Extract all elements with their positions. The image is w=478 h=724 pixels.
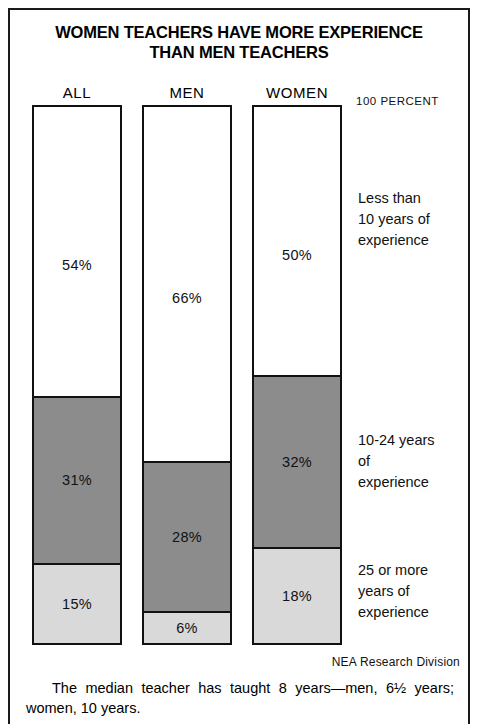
legend-top-line-2: 10 years of [358,209,470,230]
bar-segment-men-ten-to-24: 28% [144,461,230,611]
legend-item-10-to-24-years: 10-24 years of experience [358,430,470,493]
bar-segment-label: 66% [172,291,202,306]
bar-segment-women-ten-to-24: 32% [254,375,340,547]
caption-line-1: The median teacher has taught 8 years—me… [52,680,406,696]
column-header-women: WOMEN [252,84,342,101]
chart-caption: The median teacher has taught 8 years—me… [26,678,454,718]
legend-bottom-line-1: 25 or more [358,560,470,581]
bar-segment-men-twenty-five-plus: 6% [144,611,230,643]
column-header-men: MEN [142,84,232,101]
bar-segment-label: 54% [62,258,92,273]
bar-segment-women-twenty-five-plus: 18% [254,547,340,643]
bar-segment-women-less-than-10: 50% [254,107,340,375]
bar-segment-all-twenty-five-plus: 15% [34,563,120,643]
bar-segment-label: 32% [282,455,312,470]
legend-mid-line-2: of [358,451,470,472]
bar-segment-label: 31% [62,473,92,488]
bar-segment-label: 15% [62,597,92,612]
legend-bottom-line-3: experience [358,602,470,623]
legend-mid-line-3: experience [358,472,470,493]
legend-mid-line-1: 10-24 years [358,430,470,451]
bar-segment-all-ten-to-24: 31% [34,396,120,562]
legend-item-25-or-more-years: 25 or more years of experience [358,560,470,623]
legend-bottom-line-2: years of [358,581,470,602]
bar-segment-label: 50% [282,248,312,263]
stacked-bar-all: 54%31%15% [32,105,122,645]
stacked-bar-women: 50%32%18% [252,105,342,645]
bar-segment-label: 28% [172,530,202,545]
legend-top-line-3: experience [358,230,470,251]
source-attribution: NEA Research Division [0,655,460,669]
bar-segment-men-less-than-10: 66% [144,107,230,461]
bar-segment-all-less-than-10: 54% [34,107,120,396]
scale-caption: 100 PERCENT [356,95,439,107]
bar-segment-label: 6% [176,621,198,636]
legend-item-less-than-10-years: Less than 10 years of experience [358,188,470,251]
legend-top-line-1: Less than [358,188,470,209]
stacked-bar-men: 66%28%6% [142,105,232,645]
bar-segment-label: 18% [282,589,312,604]
column-header-all: ALL [32,84,122,101]
